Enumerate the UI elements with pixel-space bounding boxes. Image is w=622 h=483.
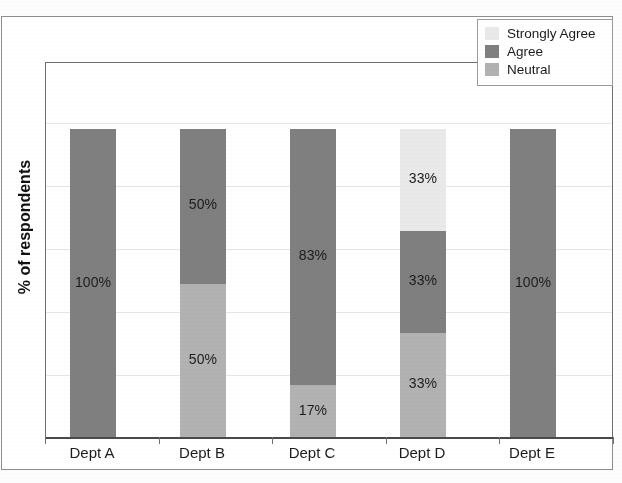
bar-segment-value-label: 17%: [299, 402, 327, 418]
bar-dept-c[interactable]: 83%17%: [290, 129, 336, 438]
legend-swatch-icon: [485, 63, 499, 76]
x-axis-label-dept-a: Dept A: [37, 444, 147, 461]
bar-segment-agree[interactable]: 100%: [70, 129, 116, 438]
bar-dept-e[interactable]: 100%: [510, 129, 556, 438]
y-axis-title: % of respondents: [16, 127, 34, 327]
bar-dept-d[interactable]: 33%33%33%: [400, 129, 446, 438]
x-axis-tick: [272, 437, 273, 444]
x-axis-line: [45, 437, 613, 439]
chart-root: % of respondents 100%50%50%83%17%33%33%3…: [0, 0, 622, 483]
bar-segment-value-label: 50%: [189, 351, 217, 367]
x-axis-tick: [45, 437, 46, 444]
legend-item-label: Agree: [507, 44, 543, 59]
bar-segment-neutral[interactable]: 17%: [290, 385, 336, 438]
bar-segment-agree[interactable]: 100%: [510, 129, 556, 438]
legend-item-neutral[interactable]: Neutral: [485, 61, 606, 78]
bar-segment-value-label: 100%: [75, 274, 111, 290]
bar-segment-value-label: 50%: [189, 196, 217, 212]
bar-segment-strongly-agree[interactable]: 33%: [400, 129, 446, 231]
x-axis-label-dept-e: Dept E: [477, 444, 587, 461]
bar-segment-value-label: 33%: [409, 375, 437, 391]
x-axis-label-dept-d: Dept D: [367, 444, 477, 461]
bar-segment-value-label: 100%: [515, 274, 551, 290]
x-axis-tick: [613, 437, 614, 444]
bar-segment-agree[interactable]: 83%: [290, 129, 336, 385]
legend-item-label: Strongly Agree: [507, 26, 596, 41]
bar-dept-b[interactable]: 50%50%: [180, 129, 226, 438]
legend-swatch-icon: [485, 45, 499, 58]
x-axis-label-dept-b: Dept B: [147, 444, 257, 461]
x-axis-tick: [159, 437, 160, 444]
legend-swatch-icon: [485, 27, 499, 40]
legend-item-agree[interactable]: Agree: [485, 43, 606, 60]
x-axis-tick: [499, 437, 500, 444]
bar-segment-value-label: 83%: [299, 247, 327, 263]
x-axis-tick: [386, 437, 387, 444]
legend-item-strongly-agree[interactable]: Strongly Agree: [485, 25, 606, 42]
x-axis-label-dept-c: Dept C: [257, 444, 367, 461]
bar-segment-value-label: 33%: [409, 272, 437, 288]
bar-segment-agree[interactable]: 33%: [400, 231, 446, 333]
legend: Strongly AgreeAgreeNeutral: [477, 19, 613, 86]
legend-item-label: Neutral: [507, 62, 551, 77]
bar-segment-agree[interactable]: 50%: [180, 129, 226, 284]
bars-layer: 100%50%50%83%17%33%33%33%100%: [46, 63, 612, 437]
bar-dept-a[interactable]: 100%: [70, 129, 116, 438]
bar-segment-neutral[interactable]: 33%: [400, 333, 446, 438]
plot-area: 100%50%50%83%17%33%33%33%100%: [45, 62, 613, 438]
bar-segment-neutral[interactable]: 50%: [180, 284, 226, 439]
bar-segment-value-label: 33%: [409, 170, 437, 186]
